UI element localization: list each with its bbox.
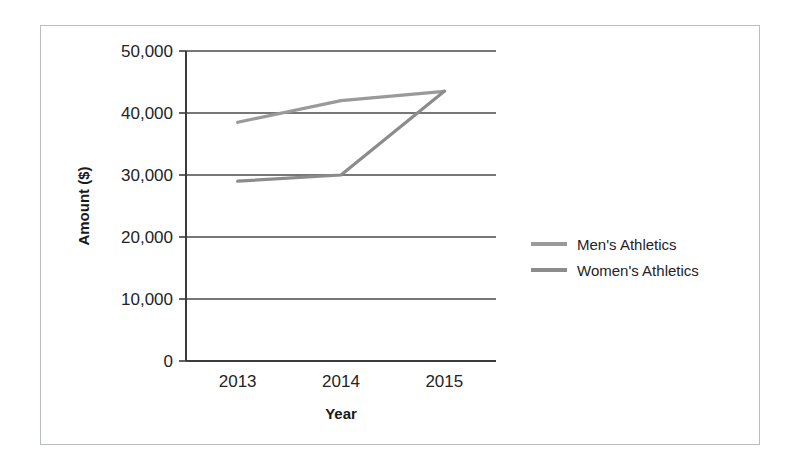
y-axis-tick-label: 0 — [164, 352, 173, 371]
y-axis-tick-label: 10,000 — [121, 290, 173, 309]
y-axis-tick-label: 40,000 — [121, 104, 173, 123]
x-axis-tick-label: 2014 — [322, 372, 360, 391]
x-axis-tick-labels: 201320142015 — [219, 372, 463, 391]
chart-figure-frame: 010,00020,00030,00040,00050,000 20132014… — [40, 25, 760, 445]
x-axis-tick-label: 2015 — [425, 372, 463, 391]
plot-area-background — [186, 51, 496, 361]
y-axis-tick-label: 50,000 — [121, 42, 173, 61]
x-axis-title: Year — [325, 405, 357, 422]
y-axis-title: Amount ($) — [75, 166, 92, 245]
chart-legend: Men's AthleticsWomen's Athletics — [531, 236, 699, 279]
y-axis-tick-labels: 010,00020,00030,00040,00050,000 — [121, 42, 173, 371]
x-axis-tick-label: 2013 — [219, 372, 257, 391]
y-axis-tick-label: 20,000 — [121, 228, 173, 247]
line-chart: 010,00020,00030,00040,00050,000 20132014… — [41, 26, 759, 444]
y-axis-ticks — [179, 51, 186, 361]
legend-label: Men's Athletics — [577, 236, 677, 253]
legend-label: Women's Athletics — [577, 262, 699, 279]
y-axis-tick-label: 30,000 — [121, 166, 173, 185]
